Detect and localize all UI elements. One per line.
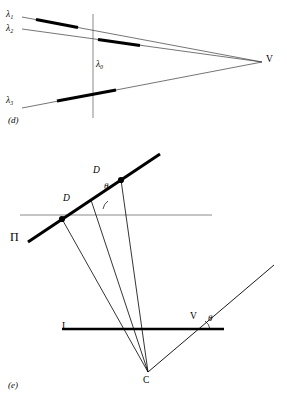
panel-caption-e: (e) <box>8 381 18 390</box>
panel-caption-d: (d) <box>8 116 19 125</box>
ray-lambda2-bold-segment <box>98 40 140 46</box>
angle-arc-upper-theta <box>103 201 108 209</box>
ray-lambda2 <box>22 29 262 62</box>
label-center-c: C <box>143 376 149 386</box>
label-lambda3: λ₃ <box>6 96 13 106</box>
label-distance-d-upper: D <box>93 166 100 176</box>
label-lambda0: λ₀ <box>96 60 103 70</box>
label-vanishing-point-v: V <box>190 312 197 322</box>
ray-lambda3-bold-segment <box>57 90 116 101</box>
figure-canvas <box>0 0 287 400</box>
projection-ray-3 <box>121 180 148 372</box>
label-vertex-v-panel-d: V <box>266 55 273 65</box>
panel-e-graphics <box>20 154 274 372</box>
label-lambda1: λ₁ <box>6 10 13 20</box>
figure-root: λ₁ λ₂ λ₃ λ₀ V (d) Π D D θ I V θ C (e) <box>0 0 287 400</box>
label-plane-pi: Π <box>10 231 19 243</box>
label-theta-lower: θ <box>208 314 212 323</box>
panel-d-graphics <box>22 14 262 118</box>
ray-lambda1-bold-segment <box>36 20 78 28</box>
label-distance-d-lower: D <box>63 194 70 204</box>
label-lambda2: λ₂ <box>6 24 13 34</box>
label-image-line-i: I <box>62 322 65 332</box>
label-theta-upper: θ <box>104 182 108 191</box>
